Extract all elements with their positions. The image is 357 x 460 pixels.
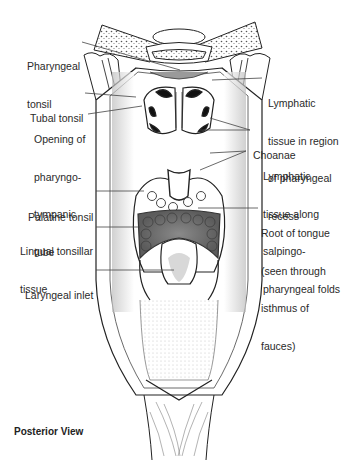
laryngopharynx: [140, 300, 218, 460]
view-caption: Posterior View: [14, 426, 83, 437]
label-root-of-tongue: Root of tongue (seen through isthmus of …: [261, 202, 330, 365]
label-laryngeal-inlet: Laryngeal inlet: [25, 264, 93, 314]
